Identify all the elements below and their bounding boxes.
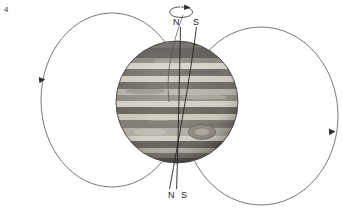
bottom-south-pole-label: S	[181, 191, 187, 200]
rotation-direction-arrow-icon	[170, 4, 193, 17]
top-north-pole-label: N	[173, 18, 180, 27]
jupiter-magnetic-field-figure: 4	[0, 0, 342, 209]
field-line-direction-arrow-right-icon	[329, 129, 336, 136]
diagram-canvas	[0, 0, 342, 209]
bottom-north-pole-label: N	[168, 191, 175, 200]
top-south-pole-label: S	[193, 18, 199, 27]
